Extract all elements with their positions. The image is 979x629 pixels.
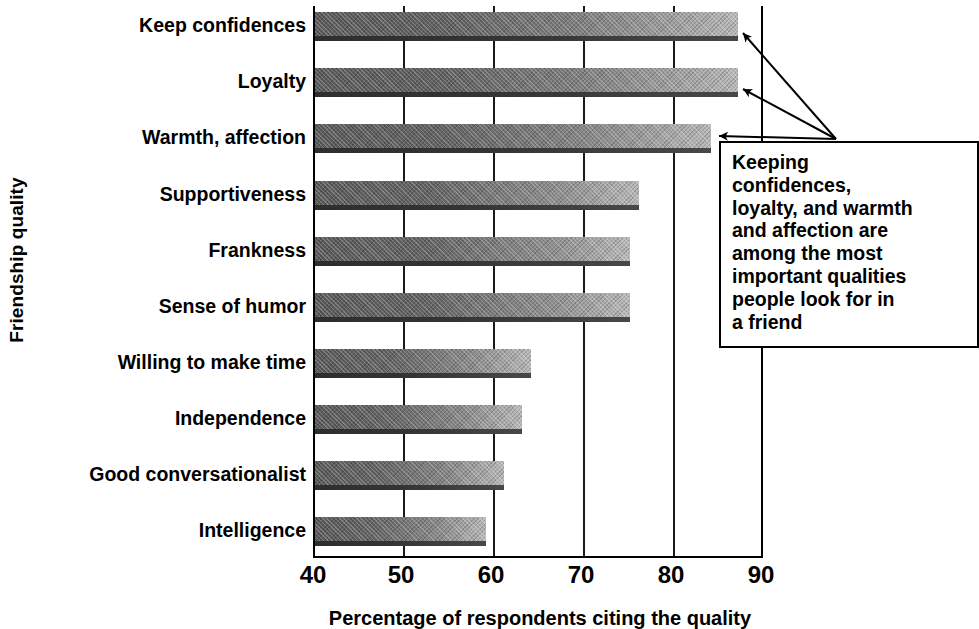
y-tick-label-good-conversationalist: Good conversationalist [40, 465, 306, 485]
callout-box: Keeping confidences, loyalty, and warmth… [719, 141, 979, 348]
bar-independence [315, 405, 522, 429]
bar-supportiveness [315, 181, 639, 205]
y-tick-label-keep-confidences: Keep confidences [40, 16, 306, 36]
x-tick-label-40: 40 [283, 563, 343, 587]
y-tick-label-willing-to-make-time: Willing to make time [40, 353, 306, 373]
x-tick-label-90: 90 [731, 563, 791, 587]
y-axis-title: Friendship quality [2, 130, 32, 390]
bar-texture [315, 237, 630, 261]
bar-texture [315, 181, 639, 205]
y-tick-label-intelligence: Intelligence [40, 521, 306, 541]
bar-texture [315, 12, 738, 36]
y-tick-label-warmth-affection: Warmth, affection [40, 128, 306, 148]
bar-texture [315, 293, 630, 317]
y-tick-label-supportiveness: Supportiveness [40, 185, 306, 205]
bar-warmth-affection [315, 124, 711, 148]
bar-frankness [315, 237, 630, 261]
bar-sense-of-humor [315, 293, 630, 317]
y-tick-label-sense-of-humor: Sense of humor [40, 297, 306, 317]
plot-area [313, 6, 763, 558]
y-tick-label-frankness: Frankness [40, 241, 306, 261]
y-tick-label-independence: Independence [40, 409, 306, 429]
y-axis-title-text: Friendship quality [6, 177, 28, 342]
bar-loyalty [315, 68, 738, 92]
x-tick-label-60: 60 [461, 563, 521, 587]
bar-texture [315, 124, 711, 148]
bar-willing-to-make-time [315, 349, 531, 373]
x-tick-label-80: 80 [641, 563, 701, 587]
bar-keep-confidences [315, 12, 738, 36]
bar-good-conversationalist [315, 461, 504, 485]
bar-texture [315, 405, 522, 429]
bar-texture [315, 349, 531, 373]
bar-texture [315, 461, 504, 485]
bar-texture [315, 517, 486, 541]
y-axis-tick-labels: Keep confidences Loyalty Warmth, affecti… [40, 0, 306, 560]
callout-text: Keeping confidences, loyalty, and warmth… [732, 151, 948, 334]
bar-intelligence [315, 517, 486, 541]
bar-texture [315, 68, 738, 92]
x-tick-label-70: 70 [551, 563, 611, 587]
y-tick-label-loyalty: Loyalty [40, 72, 306, 92]
x-tick-label-50: 50 [371, 563, 431, 587]
x-axis-title: Percentage of respondents citing the qua… [180, 607, 900, 629]
